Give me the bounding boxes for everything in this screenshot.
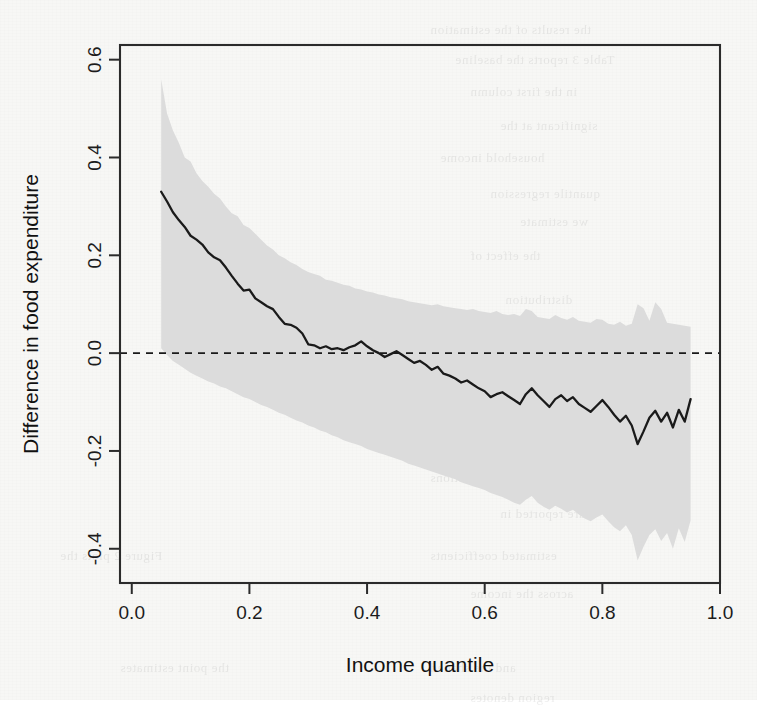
y-tick-label: 0.0 [84,340,105,366]
x-axis-ticks: 0.00.20.40.60.81.0 [119,583,734,623]
x-tick-label: 0.6 [471,602,497,623]
x-tick-label: 1.0 [707,602,733,623]
y-tick-label: 0.4 [84,144,105,171]
y-tick-label: 0.6 [84,46,105,72]
x-tick-label: 0.0 [119,602,145,623]
x-axis-title: Income quantile [346,653,494,676]
y-tick-label: -0.4 [84,532,105,565]
y-tick-label: -0.2 [84,435,105,468]
confidence-band [161,79,690,560]
x-tick-label: 0.4 [354,602,381,623]
x-tick-label: 0.2 [236,602,262,623]
y-axis-ticks: 0.60.40.20.0-0.2-0.4 [84,46,120,565]
y-tick-label: 0.2 [84,242,105,268]
y-axis-title: Difference in food expenditure [19,174,42,454]
x-tick-label: 0.8 [589,602,615,623]
